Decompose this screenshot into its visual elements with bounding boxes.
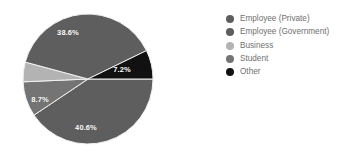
legend-swatch-icon	[226, 42, 234, 50]
legend-item[interactable]: Other	[226, 66, 348, 79]
legend-list: Employee (Private)Employee (Government)B…	[226, 13, 348, 78]
pie-slice-label: 40.6%	[75, 123, 97, 132]
legend-item-label: Employee (Government)	[240, 28, 329, 36]
pie-plot-area: 40.6%8.7%38.6%7.2%	[0, 0, 178, 157]
legend-item[interactable]: Business	[226, 39, 348, 52]
legend-item-label: Student	[240, 55, 268, 63]
pie-slice-label: 38.6%	[57, 28, 79, 37]
legend-item[interactable]: Student	[226, 53, 348, 66]
pie-slice-label: 8.7%	[31, 95, 49, 104]
legend-swatch-icon	[226, 68, 234, 76]
chart-legend: Employee (Private)Employee (Government)B…	[178, 0, 348, 79]
legend-swatch-icon	[226, 15, 234, 23]
legend-item-label: Employee (Private)	[240, 15, 310, 23]
legend-item[interactable]: Employee (Private)	[226, 13, 348, 26]
legend-swatch-icon	[226, 28, 234, 36]
legend-item-label: Business	[240, 42, 273, 50]
pie-chart-figure: 40.6%8.7%38.6%7.2% Employee (Private)Emp…	[0, 0, 348, 157]
pie-svg	[0, 0, 178, 157]
legend-swatch-icon	[226, 55, 234, 63]
legend-item[interactable]: Employee (Government)	[226, 26, 348, 39]
legend-item-label: Other	[240, 68, 260, 76]
pie-slice-label: 7.2%	[113, 65, 131, 74]
